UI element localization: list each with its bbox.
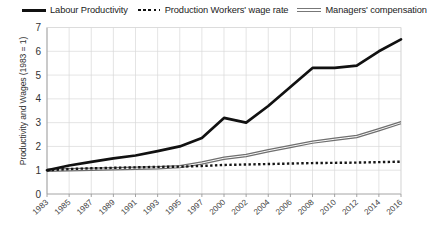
legend-label-managers-compensation: Managers' compensation <box>325 5 426 15</box>
x-axis-tick-labels: 1983198519871989199119931995199720002002… <box>31 198 405 217</box>
x-axis-tick-label: 1985 <box>53 198 73 217</box>
dotted-line-key-icon <box>137 5 161 15</box>
x-axis-tick-label: 2010 <box>318 198 338 217</box>
x-axis-tick-label: 1987 <box>75 198 95 217</box>
solid-line-key-icon <box>22 5 46 15</box>
legend-item-managers-compensation: Managers' compensation <box>297 5 426 15</box>
legend-label-production-workers-wage-rate: Production Workers' wage rate <box>165 5 289 15</box>
y-axis-tick-label: 5 <box>35 70 41 81</box>
x-axis-tick-label: 1991 <box>119 198 139 217</box>
x-axis-tick-label: 2014 <box>363 198 383 217</box>
chart-svg: 01234567 1983198519871989199119931995199… <box>0 20 424 231</box>
legend-label-labour-productivity: Labour Productivity <box>50 5 128 15</box>
x-axis-tick-label: 1983 <box>31 198 51 217</box>
x-axis-tick-label: 2012 <box>341 198 361 217</box>
y-axis-tick-label: 4 <box>35 93 41 104</box>
double-line-key-icon <box>297 5 321 15</box>
y-axis-tick-label: 2 <box>35 141 41 152</box>
x-axis-tick-label: 1997 <box>186 198 206 217</box>
y-axis-tick-label: 3 <box>35 117 41 128</box>
chart-legend: Labour Productivity Production Workers' … <box>0 0 424 20</box>
y-axis-tick-label: 7 <box>35 22 41 33</box>
x-axis-tick-label: 2002 <box>230 198 250 217</box>
y-axis-tick-label: 1 <box>35 165 41 176</box>
y-axis-tick-label: 6 <box>35 46 41 57</box>
x-axis-tick-label: 1989 <box>97 198 117 217</box>
legend-item-labour-productivity: Labour Productivity <box>22 5 128 15</box>
x-axis-tick-label: 2000 <box>208 198 228 217</box>
x-axis-tick-label: 2016 <box>385 198 405 217</box>
x-axis-tick-label: 1993 <box>141 198 161 217</box>
y-axis-tick-label: 0 <box>35 189 41 200</box>
x-axis-tick-label: 2004 <box>252 198 272 217</box>
legend-item-production-workers-wage-rate: Production Workers' wage rate <box>137 5 289 15</box>
plot-area: 01234567 1983198519871989199119931995199… <box>0 20 424 231</box>
x-axis-tick-label: 2006 <box>274 198 294 217</box>
x-axis-tick-label: 1995 <box>164 198 184 217</box>
x-axis-tick-label: 2008 <box>296 198 316 217</box>
y-axis-tick-labels: 01234567 <box>35 22 41 200</box>
